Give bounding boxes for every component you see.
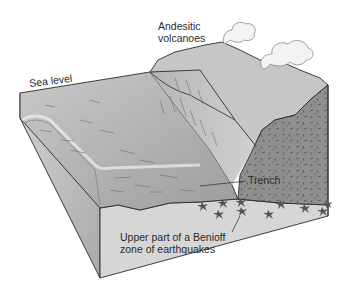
volcanoes-label-line1: Andesitic [158, 20, 238, 32]
subduction-block-diagram [0, 0, 360, 303]
volcano-plume-right [261, 41, 313, 69]
volcanoes-label-line2: volcanoes [158, 32, 238, 44]
trench-label: Trench [248, 174, 280, 186]
benioff-zone-label: Upper part of a Benioff zone of earthqua… [120, 231, 250, 255]
benioff-label-line2: zone of earthquakes [120, 243, 250, 255]
benioff-label-line1: Upper part of a Benioff [120, 231, 250, 243]
andesitic-volcanoes-label: Andesitic volcanoes [158, 20, 238, 44]
